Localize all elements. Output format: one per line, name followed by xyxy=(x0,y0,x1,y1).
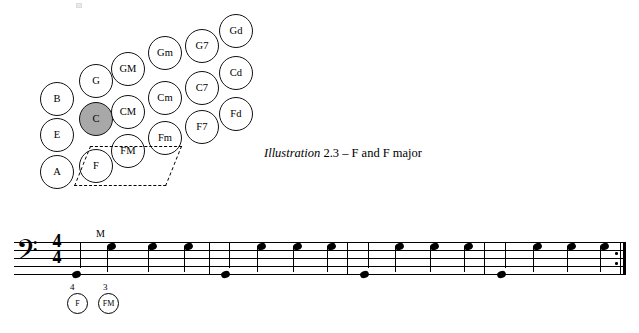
barline xyxy=(484,242,485,275)
chord-node-label: C7 xyxy=(196,82,208,93)
fingering-number: 3 xyxy=(103,282,108,292)
illustration-caption: Illustration 2.3 – F and F major xyxy=(264,146,422,161)
chord-node-label: CM xyxy=(120,106,137,117)
note-stem xyxy=(107,246,108,272)
chord-node-fd[interactable]: Fd xyxy=(219,97,253,131)
note-stem xyxy=(430,246,431,272)
note-stem xyxy=(567,246,568,272)
note-stem xyxy=(464,246,465,272)
note-stem xyxy=(80,242,81,268)
chord-node-g[interactable]: G xyxy=(79,64,113,98)
note-stem xyxy=(600,246,601,272)
notehead-icon xyxy=(359,270,370,280)
chord-node-cm[interactable]: CM xyxy=(111,95,145,129)
chord-node-label: Gd xyxy=(229,25,242,36)
chord-node-label: B xyxy=(53,93,60,104)
chord-node-c7[interactable]: C7 xyxy=(185,71,219,105)
notehead-icon xyxy=(220,270,231,280)
barline-thick xyxy=(623,242,626,275)
notehead-icon xyxy=(496,270,507,280)
chord-node-b[interactable]: B xyxy=(40,82,74,116)
chord-bubble-fm[interactable]: FM xyxy=(98,293,119,314)
page-canvas: BEAGCFGMCMFMGmCmFmG7C7F7GdCdFd Illustrat… xyxy=(0,0,639,333)
music-system: M 𝄢 4 4 43 FFM Exercise xyxy=(0,215,639,333)
chord-node-label: Gm xyxy=(157,47,173,58)
chord-node-label: G xyxy=(92,75,100,86)
notehead-icon xyxy=(71,270,82,280)
chord-selection-outline xyxy=(74,146,182,186)
chord-node-label: A xyxy=(53,166,61,177)
fingering-number: 4 xyxy=(70,282,75,292)
note-stem xyxy=(368,242,369,268)
chord-node-label: F7 xyxy=(196,121,207,132)
illustration-number: 2.3 xyxy=(323,146,339,160)
chord-node-label: Cm xyxy=(157,92,172,103)
chord-node-label: Fm xyxy=(158,132,172,143)
chord-grid-diagram: BEAGCFGMCMFMGmCmFmG7C7F7GdCdFd xyxy=(0,0,300,215)
chord-bubble-label: F xyxy=(75,300,79,308)
time-signature: 4 4 xyxy=(50,233,64,265)
illustration-dash: – xyxy=(342,146,348,160)
chord-bubble-label: FM xyxy=(103,300,115,308)
note-stem xyxy=(184,246,185,272)
chord-node-a[interactable]: A xyxy=(40,155,74,189)
chord-node-gm[interactable]: GM xyxy=(111,52,145,86)
barline-thin xyxy=(620,242,621,275)
chord-node-gd[interactable]: Gd xyxy=(219,14,253,48)
chord-node-label: GM xyxy=(119,63,136,73)
chord-node-label: C xyxy=(92,113,99,124)
chord-node-g7[interactable]: G7 xyxy=(185,29,219,63)
chord-node-f7[interactable]: F7 xyxy=(185,110,219,144)
note-stem xyxy=(395,246,396,272)
music-staff: 𝄢 4 4 xyxy=(14,242,626,274)
illustration-prefix: Illustration xyxy=(264,146,320,160)
chord-node-cm[interactable]: Cm xyxy=(148,81,182,115)
note-stem xyxy=(229,242,230,268)
note-stem xyxy=(257,246,258,272)
note-stem xyxy=(505,242,506,268)
barline xyxy=(209,242,210,275)
chord-node-label: Fd xyxy=(230,108,241,119)
staff-line xyxy=(14,266,626,267)
illustration-title: F and F major xyxy=(352,146,422,160)
staff-line xyxy=(14,274,626,275)
time-signature-denominator: 4 xyxy=(50,249,64,265)
hand-position-mark: M xyxy=(96,228,105,239)
staff-line xyxy=(14,258,626,259)
chord-node-label: Cd xyxy=(230,67,242,78)
chord-node-label: G7 xyxy=(195,40,208,51)
repeat-dot xyxy=(615,262,618,265)
chord-node-e[interactable]: E xyxy=(40,118,74,152)
note-stem xyxy=(327,246,328,272)
note-stem xyxy=(293,246,294,272)
bass-clef-icon: 𝄢 xyxy=(16,236,38,270)
barline xyxy=(347,242,348,275)
note-stem xyxy=(148,246,149,272)
chord-node-gm[interactable]: Gm xyxy=(148,36,182,70)
note-stem xyxy=(533,246,534,272)
chord-node-c[interactable]: C xyxy=(79,102,113,136)
chord-node-label: E xyxy=(54,129,61,140)
chord-bubble-f[interactable]: F xyxy=(67,293,88,314)
chord-node-cd[interactable]: Cd xyxy=(219,56,253,90)
repeat-dot xyxy=(615,252,618,255)
